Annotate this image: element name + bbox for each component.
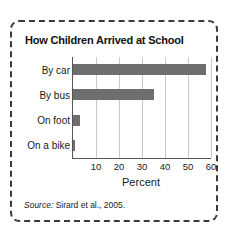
source-note: Source: Sirard et al., 2005. [24,200,125,210]
x-axis-tick-label: 20 [114,161,125,172]
x-axis-tick-label: 60 [206,161,217,172]
y-axis-tick-label: On a bike [12,140,70,151]
bar [73,64,206,75]
source-citation: Sirard et al., 2005. [53,200,125,210]
y-axis-category-labels: By carBy busOn footOn a bike [12,57,70,158]
y-axis-tick-label: On foot [12,115,70,126]
x-axis-tick-label: 30 [137,161,148,172]
x-axis-tick-label: 10 [91,161,102,172]
x-axis-tick-label: 50 [183,161,194,172]
source-label: Source: [24,200,53,210]
bar [73,89,154,100]
bar [73,115,80,126]
chart-title: How Children Arrived at School [25,34,184,46]
gridline [211,57,212,158]
x-axis-title: Percent [72,176,210,188]
bar [73,140,75,151]
figure-frame: How Children Arrived at School By carBy … [10,20,218,222]
y-axis-tick-label: By bus [12,89,70,100]
chart-plot: By carBy busOn footOn a bike 10203040506… [12,57,216,177]
x-axis-tick-label: 40 [160,161,171,172]
y-axis-tick-label: By car [12,64,70,75]
plot-area: 102030405060 [72,57,211,159]
